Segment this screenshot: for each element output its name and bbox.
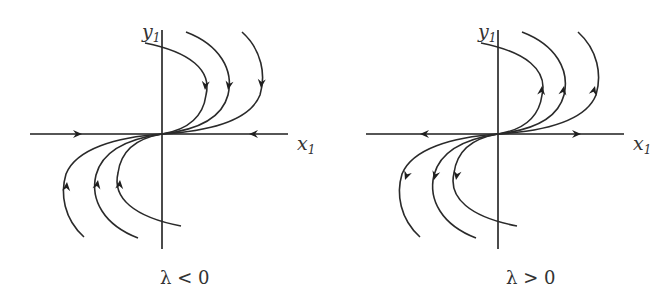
y-axis-label: y1 — [141, 20, 160, 45]
panel-caption: λ > 0 — [506, 267, 555, 288]
trajectory-lower-3 — [63, 134, 162, 237]
x-axis-label: x1 — [297, 132, 315, 157]
phase-portrait-lambda-positive: y1 x1 λ > 0 — [366, 20, 651, 288]
x-axis-label: x1 — [633, 132, 651, 157]
trajectory-lower-1 — [453, 134, 517, 226]
arrow-down-icon — [201, 81, 210, 91]
y-axis-label: y1 — [477, 20, 496, 45]
trajectory-lower-1 — [117, 134, 181, 226]
trajectory-upper-1 — [481, 43, 543, 134]
arrow-up-icon — [558, 85, 567, 95]
trajectory-upper-1 — [145, 43, 207, 134]
panel-caption: λ < 0 — [160, 267, 209, 288]
phase-portraits: y1 x1 λ < 0 y1 x1 λ > 0 — [0, 0, 669, 305]
phase-portrait-lambda-negative: y1 x1 λ < 0 — [30, 20, 315, 288]
arrow-down-icon — [257, 79, 266, 89]
